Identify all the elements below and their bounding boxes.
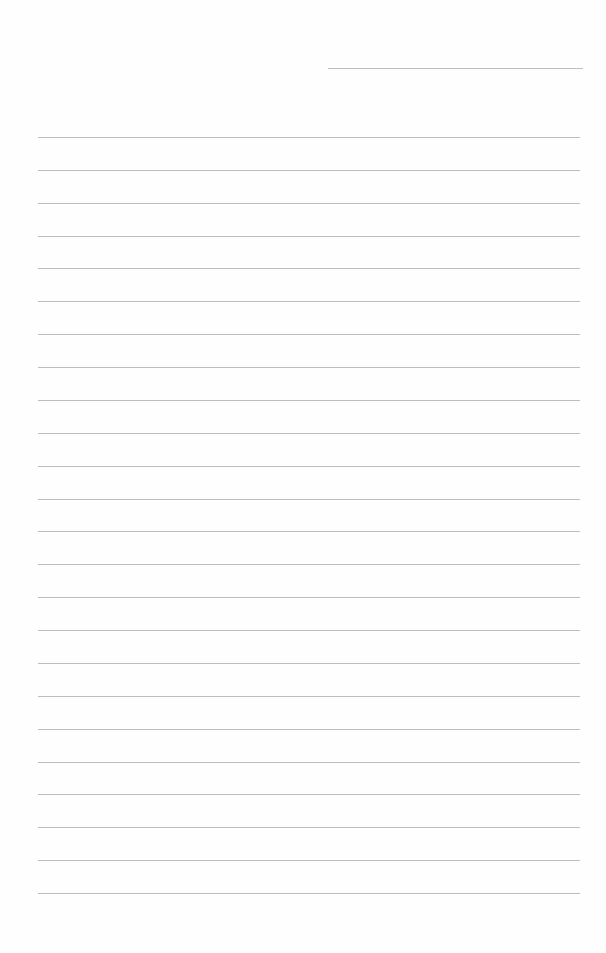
ruled-line [38, 663, 580, 664]
ruled-line [38, 268, 580, 269]
ruled-line [38, 597, 580, 598]
ruled-line [38, 203, 580, 204]
ruled-line [38, 794, 580, 795]
ruled-line [38, 170, 580, 171]
ruled-line [38, 400, 580, 401]
ruled-line [38, 762, 580, 763]
ruled-line [38, 696, 580, 697]
ruled-line [38, 531, 580, 532]
ruled-line [38, 367, 580, 368]
ruled-line [38, 236, 580, 237]
ruled-line [38, 499, 580, 500]
header-name-line [328, 68, 583, 69]
ruled-line [38, 893, 580, 894]
ruled-line [38, 630, 580, 631]
ruled-line [38, 827, 580, 828]
ruled-line [38, 433, 580, 434]
lined-paper-page [0, 0, 606, 953]
ruled-line [38, 334, 580, 335]
ruled-line [38, 137, 580, 138]
ruled-line [38, 564, 580, 565]
ruled-line [38, 860, 580, 861]
ruled-line [38, 729, 580, 730]
ruled-line [38, 466, 580, 467]
ruled-line [38, 301, 580, 302]
